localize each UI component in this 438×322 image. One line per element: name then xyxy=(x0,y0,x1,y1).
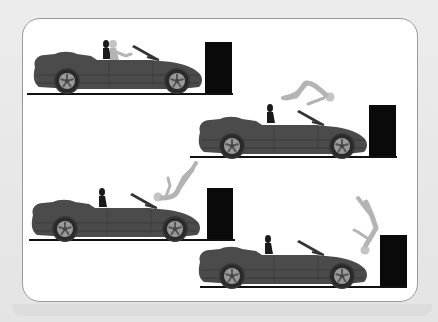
wall xyxy=(205,42,232,94)
ground-line xyxy=(27,93,233,95)
passenger xyxy=(283,83,335,104)
car xyxy=(199,240,367,289)
passenger xyxy=(354,198,376,255)
crash-sequence-illustration xyxy=(0,0,438,322)
frame-3 xyxy=(29,163,235,242)
car xyxy=(32,193,200,242)
car xyxy=(199,110,367,159)
driver xyxy=(267,104,275,123)
wall xyxy=(207,188,233,240)
driver xyxy=(265,235,273,254)
driver xyxy=(99,188,107,207)
ground-line xyxy=(190,156,397,158)
frame-1 xyxy=(27,40,233,95)
wall xyxy=(380,235,407,287)
passenger xyxy=(154,163,197,202)
passenger xyxy=(109,40,131,60)
wall xyxy=(369,105,396,157)
